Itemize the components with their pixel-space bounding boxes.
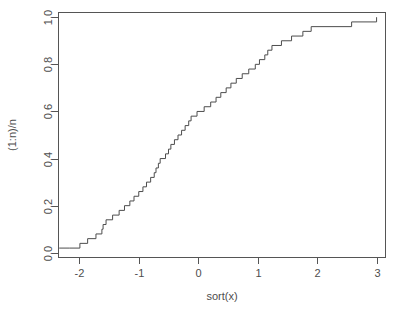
x-tick-label: 3 (374, 267, 380, 279)
y-tick-label: 0.6 (42, 104, 54, 119)
x-tick-label: 1 (255, 267, 261, 279)
x-axis-title: sort(x) (206, 290, 237, 302)
y-tick-label: 0.0 (42, 246, 54, 261)
plot-canvas: -2-10123 0.00.20.40.60.81.0 sort(x) (1:n… (0, 0, 401, 314)
y-tick-label: 0.2 (42, 199, 54, 214)
x-tick-label: -2 (75, 267, 85, 279)
x-tick-label: -1 (135, 267, 145, 279)
y-tick-label: 0.8 (42, 57, 54, 72)
ecdf-figure: -2-10123 0.00.20.40.60.81.0 sort(x) (1:n… (0, 0, 401, 314)
y-tick-label: 1.0 (42, 10, 54, 25)
x-tick-label: 2 (314, 267, 320, 279)
y-axis-title: (1:n)/n (6, 119, 18, 151)
x-tick-label: 0 (195, 267, 201, 279)
y-tick-label: 0.4 (42, 152, 54, 167)
